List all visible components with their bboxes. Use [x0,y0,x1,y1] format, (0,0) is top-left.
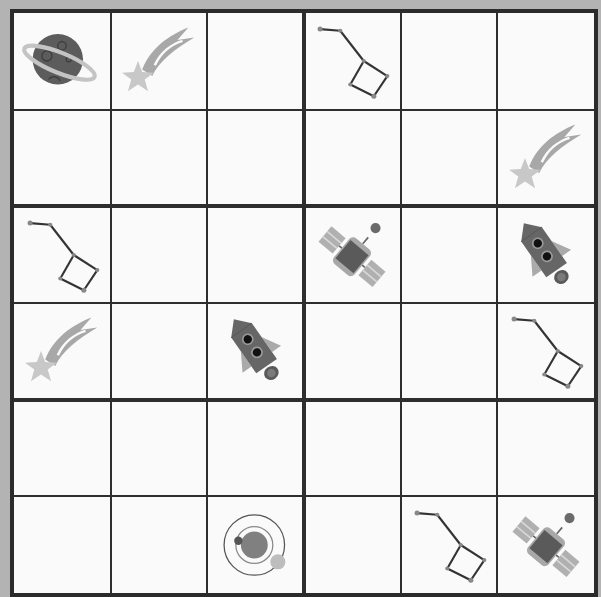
grid-cell-r6c3[interactable] [207,496,304,593]
constellation-icon [504,309,588,393]
shooting-star-icon [20,309,104,393]
grid-cell-r5c4[interactable] [304,400,401,497]
grid-cell-r2c4[interactable] [304,110,401,207]
grid-cell-r3c6[interactable] [497,206,594,303]
grid-cell-r5c1[interactable] [14,400,111,497]
grid-line-horizontal [14,109,594,111]
grid-cell-r3c4[interactable] [304,206,401,303]
grid-cell-r4c4[interactable] [304,303,401,400]
grid-cell-r6c6[interactable] [497,496,594,593]
box-divider-horizontal [14,398,594,402]
grid-cell-r1c2[interactable] [111,13,208,110]
grid-line-horizontal [14,302,594,304]
grid-cell-r1c6[interactable] [497,13,594,110]
grid-cell-r6c5[interactable] [401,496,498,593]
grid-cell-r6c1[interactable] [14,496,111,593]
grid-line-horizontal [14,495,594,497]
solar-system-icon [214,503,298,587]
grid-cell-r3c2[interactable] [111,206,208,303]
grid-cell-r1c5[interactable] [401,13,498,110]
grid-cell-r4c2[interactable] [111,303,208,400]
grid-cell-r2c3[interactable] [207,110,304,207]
box-divider-horizontal [14,204,594,208]
constellation-icon [20,213,104,297]
rocket-icon [504,213,588,297]
grid-cell-r6c2[interactable] [111,496,208,593]
grid-cell-r5c3[interactable] [207,400,304,497]
planet-icon [20,19,104,103]
grid-cell-r2c6[interactable] [497,110,594,207]
grid-cell-r6c4[interactable] [304,496,401,593]
grid-cell-r3c1[interactable] [14,206,111,303]
grid-cell-r5c5[interactable] [401,400,498,497]
grid-cell-r5c6[interactable] [497,400,594,497]
constellation-icon [407,503,491,587]
grid-cell-r2c2[interactable] [111,110,208,207]
grid-cell-r1c3[interactable] [207,13,304,110]
grid-cell-r2c1[interactable] [14,110,111,207]
grid-cell-r4c3[interactable] [207,303,304,400]
rocket-icon [214,309,298,393]
satellite-icon [310,213,394,297]
grid-cell-r2c5[interactable] [401,110,498,207]
grid-cell-r3c3[interactable] [207,206,304,303]
grid-cell-r4c6[interactable] [497,303,594,400]
grid-cell-r4c5[interactable] [401,303,498,400]
grid-cell-r4c1[interactable] [14,303,111,400]
grid-cell-r5c2[interactable] [111,400,208,497]
grid-cell-r1c1[interactable] [14,13,111,110]
constellation-icon [310,19,394,103]
grid-cell-r1c4[interactable] [304,13,401,110]
shooting-star-icon [504,116,588,200]
grid-cell-r3c5[interactable] [401,206,498,303]
sudoku-board [10,9,598,597]
satellite-icon [504,503,588,587]
shooting-star-icon [117,19,201,103]
